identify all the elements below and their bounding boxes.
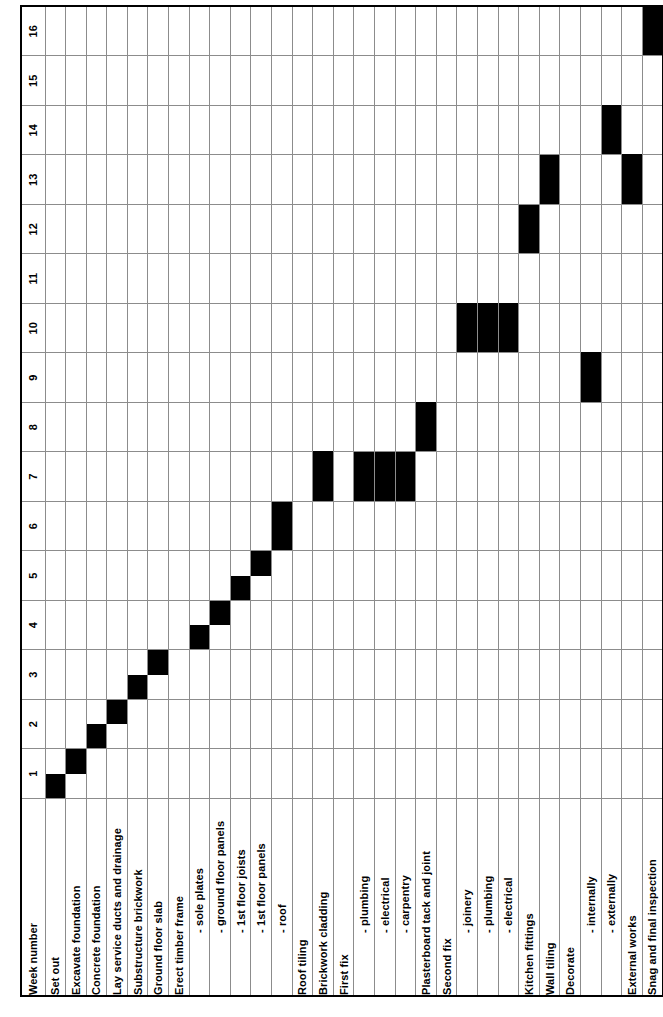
gantt-cell-w5 <box>189 551 210 601</box>
gantt-cell-w9 <box>518 353 539 403</box>
gantt-cell-w5 <box>65 551 86 601</box>
gantt-cell-w8 <box>271 403 292 453</box>
gantt-cell-w5 <box>86 551 107 601</box>
task-label: Concrete foundation <box>86 799 107 997</box>
gantt-task-row: Kitchen fittings <box>518 6 539 996</box>
gantt-cell-w9 <box>209 353 230 403</box>
gantt-cell-w4 <box>189 601 210 651</box>
gantt-task-row: - carpentry <box>395 6 416 996</box>
gantt-cell-w10 <box>86 304 107 354</box>
gantt-cell-w15 <box>415 56 436 106</box>
gantt-cell-w13 <box>250 155 271 205</box>
gantt-header-row: Week number 12345678910111213141516 <box>21 6 45 996</box>
gantt-cell-w3 <box>250 650 271 700</box>
gantt-task-row: Brickwork cladding <box>312 6 333 996</box>
gantt-cell-w12 <box>209 205 230 255</box>
gantt-cell-w2 <box>456 700 477 750</box>
gantt-task-row: Excavate foundation <box>65 6 86 996</box>
gantt-cell-w4 <box>86 601 107 651</box>
gantt-cell-w6 <box>86 502 107 552</box>
week-header-15: 15 <box>21 56 45 106</box>
gantt-cell-w11 <box>436 254 457 304</box>
gantt-task-row: - plumbing <box>353 6 374 996</box>
gantt-cell-w8 <box>498 403 519 453</box>
gantt-cell-w16 <box>580 6 601 56</box>
gantt-cell-w11 <box>45 254 66 304</box>
gantt-cell-w9 <box>415 353 436 403</box>
gantt-cell-w9 <box>333 353 354 403</box>
gantt-cell-w4 <box>436 601 457 651</box>
gantt-cell-w16 <box>65 6 86 56</box>
gantt-cell-w8 <box>539 403 560 453</box>
gantt-cell-w12 <box>127 205 148 255</box>
gantt-cell-w3 <box>477 650 498 700</box>
gantt-cell-w3 <box>539 650 560 700</box>
gantt-cell-w5 <box>209 551 230 601</box>
gantt-cell-w12 <box>45 205 66 255</box>
gantt-cell-w14 <box>395 106 416 156</box>
gantt-cell-w16 <box>436 6 457 56</box>
gantt-cell-w12 <box>621 205 642 255</box>
gantt-cell-w1 <box>45 749 66 799</box>
gantt-cell-w9 <box>147 353 168 403</box>
gantt-cell-w1 <box>271 749 292 799</box>
gantt-cell-w13 <box>292 155 313 205</box>
gantt-cell-w5 <box>312 551 333 601</box>
gantt-cell-w15 <box>353 56 374 106</box>
gantt-cell-w14 <box>374 106 395 156</box>
gantt-cell-w5 <box>168 551 189 601</box>
gantt-cell-w16 <box>230 6 251 56</box>
gantt-cell-w14 <box>65 106 86 156</box>
gantt-cell-w13 <box>147 155 168 205</box>
gantt-cell-w5 <box>477 551 498 601</box>
gantt-bar <box>189 625 209 649</box>
gantt-cell-w1 <box>312 749 333 799</box>
gantt-cell-w8 <box>559 403 580 453</box>
gantt-cell-w16 <box>86 6 107 56</box>
gantt-cell-w13 <box>415 155 436 205</box>
task-label: Wall tiling <box>539 799 560 997</box>
gantt-cell-w7 <box>498 452 519 502</box>
gantt-cell-w12 <box>580 205 601 255</box>
gantt-cell-w7 <box>45 452 66 502</box>
task-label: Substructure brickwork <box>127 799 148 997</box>
gantt-cell-w15 <box>559 56 580 106</box>
gantt-cell-w14 <box>415 106 436 156</box>
gantt-cell-w15 <box>292 56 313 106</box>
gantt-cell-w4 <box>642 601 663 651</box>
gantt-cell-w7 <box>86 452 107 502</box>
gantt-cell-w6 <box>45 502 66 552</box>
task-label: - plumbing <box>477 799 498 997</box>
gantt-cell-w4 <box>477 601 498 651</box>
gantt-cell-w1 <box>230 749 251 799</box>
gantt-cell-w8 <box>333 403 354 453</box>
gantt-cell-w10 <box>559 304 580 354</box>
gantt-cell-w11 <box>415 254 436 304</box>
gantt-cell-w11 <box>559 254 580 304</box>
gantt-cell-w10 <box>601 304 622 354</box>
gantt-cell-w11 <box>147 254 168 304</box>
gantt-task-row: Plasterboard tack and joint <box>415 6 436 996</box>
gantt-cell-w5 <box>45 551 66 601</box>
gantt-cell-w10 <box>518 304 539 354</box>
gantt-cell-w3 <box>168 650 189 700</box>
gantt-cell-w12 <box>312 205 333 255</box>
gantt-cell-w4 <box>580 601 601 651</box>
gantt-cell-w4 <box>209 601 230 651</box>
gantt-cell-w4 <box>271 601 292 651</box>
gantt-cell-w14 <box>271 106 292 156</box>
gantt-cell-w2 <box>333 700 354 750</box>
gantt-cell-w5 <box>642 551 663 601</box>
gantt-cell-w16 <box>601 6 622 56</box>
gantt-cell-w14 <box>539 106 560 156</box>
gantt-cell-w16 <box>250 6 271 56</box>
gantt-cell-w13 <box>374 155 395 205</box>
gantt-cell-w5 <box>436 551 457 601</box>
gantt-cell-w3 <box>189 650 210 700</box>
gantt-cell-w3 <box>395 650 416 700</box>
gantt-cell-w11 <box>477 254 498 304</box>
gantt-cell-w13 <box>436 155 457 205</box>
gantt-cell-w2 <box>498 700 519 750</box>
gantt-cell-w8 <box>292 403 313 453</box>
gantt-cell-w10 <box>147 304 168 354</box>
